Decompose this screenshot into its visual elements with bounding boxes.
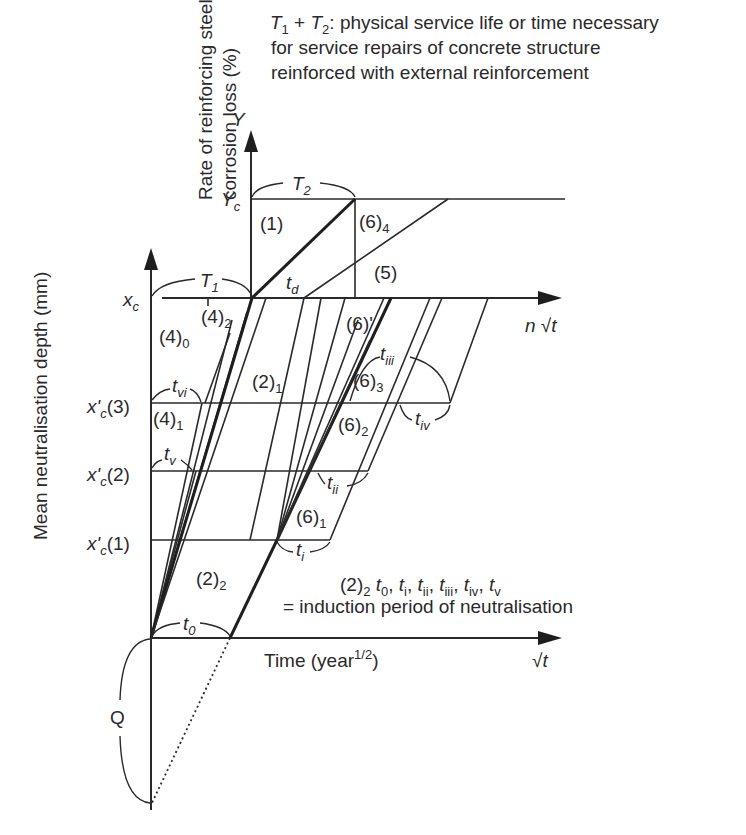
lower-y-axis-title: Mean neutralisation depth (mm): [30, 272, 51, 540]
note-line3: reinforced with external reinforcement: [271, 62, 590, 83]
td-label: td: [286, 272, 299, 297]
region-2-2-label: (2)2: [196, 568, 226, 593]
t0-label: t0: [183, 613, 196, 638]
tvi-label: tvi: [172, 375, 188, 400]
parallel-lines: [250, 298, 488, 540]
tii-label: tii: [327, 472, 339, 497]
tiii-label: tiii: [380, 343, 395, 368]
region-6-1-label: (6)1: [296, 506, 326, 531]
y-symbol: Y: [232, 109, 246, 130]
induction-note-line2: = induction period of neutralisation: [283, 596, 573, 617]
n-sqrt-t-axis-arrow-icon: [538, 291, 562, 305]
time-axis-label: Time (year1/2): [264, 647, 379, 671]
region-4-0-label: (4)0: [159, 326, 189, 351]
region-4-2-label: (4)2: [201, 306, 231, 331]
xc2-label: x'c(2): [86, 464, 130, 489]
xc1-label: x'c(1): [86, 533, 130, 558]
region-6-4-label: (6)4: [359, 211, 389, 236]
n-sqrt-t-label: n √t: [525, 315, 557, 336]
tv-label: tv: [164, 443, 177, 468]
region-2-1-label: (2)1: [252, 371, 282, 396]
tii-brace: [318, 473, 368, 486]
sqrt-t-label: √t: [532, 650, 548, 671]
q-label: Q: [110, 707, 125, 728]
region-6-prime-label: (6)': [346, 313, 373, 334]
lower-y-axis-arrow-icon: [144, 248, 158, 270]
induction-period-note: (2)2 t0, ti, tii, tiii, tiv, tv = induct…: [283, 574, 573, 617]
region-6-3-label: (6)3: [353, 370, 383, 395]
xc3-label: x'c(3): [86, 396, 130, 421]
service-life-note: T1 + T2: physical service life or time n…: [270, 12, 659, 83]
region-4-1-label: (4)1: [153, 408, 183, 433]
note-line2: for service repairs of concrete structur…: [271, 37, 600, 58]
time-axis-arrow-icon: [538, 631, 562, 645]
region-6-2-label: (6)2: [338, 414, 368, 439]
svg-text:T1 + T2: physical service life: T1 + T2: physical service life or time n…: [270, 12, 659, 37]
ti-fan-lines: [277, 298, 391, 540]
t2-label: T2: [292, 173, 312, 198]
neutralisation-corrosion-diagram: T1 + T2: physical service life or time n…: [0, 0, 746, 835]
ti-label: ti: [296, 539, 305, 564]
t1-label: T1: [200, 270, 219, 295]
xc-label: xc: [122, 289, 140, 314]
tiv-label: tiv: [415, 408, 431, 433]
upper-y-axis-title-line1: Rate of reinforcing steel: [195, 0, 216, 200]
region-1-label: (1): [260, 213, 283, 234]
line-4-0: [205, 333, 230, 403]
upper-y-axis-arrow-icon: [244, 130, 258, 152]
region-5-label: (5): [374, 262, 397, 283]
